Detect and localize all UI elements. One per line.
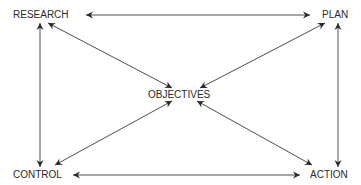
node-research: RESEARCH: [13, 10, 69, 20]
arrow-action-objectives: [197, 101, 312, 165]
arrow-control-objectives: [55, 101, 172, 165]
arrow-research-objectives: [48, 23, 172, 88]
arrow-plan-objectives: [200, 23, 325, 88]
objectives-cycle-diagram: RESEARCH PLAN OBJECTIVES CONTROL ACTION: [0, 0, 361, 185]
node-action: ACTION: [310, 170, 348, 180]
node-plan: PLAN: [322, 10, 348, 20]
node-objectives: OBJECTIVES: [148, 90, 210, 100]
node-control: CONTROL: [13, 170, 62, 180]
